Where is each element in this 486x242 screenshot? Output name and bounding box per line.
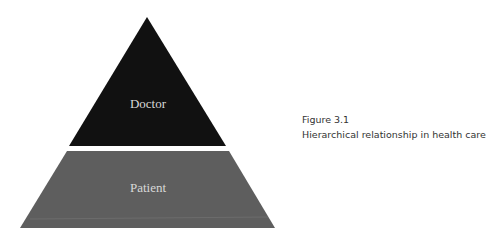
figure-title: Hierarchical relationship in health care bbox=[302, 127, 486, 142]
doctor-tier-label: Doctor bbox=[88, 96, 208, 112]
figure-number: Figure 3.1 bbox=[302, 112, 486, 127]
patient-tier-label: Patient bbox=[88, 180, 208, 196]
figure-caption: Figure 3.1 Hierarchical relationship in … bbox=[302, 112, 486, 142]
doctor-tier-triangle bbox=[69, 17, 226, 146]
